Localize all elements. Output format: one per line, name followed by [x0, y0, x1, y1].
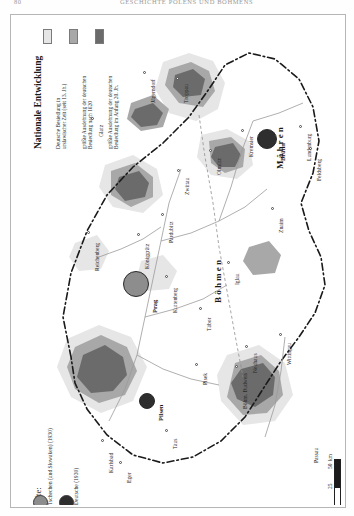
place-label: Pardubitz: [168, 243, 189, 249]
place-dot: [271, 207, 274, 210]
legend-label-1900: größte Ausdehnung der deutschen Besiedlu…: [107, 149, 219, 162]
place-dot: [87, 231, 90, 234]
place-label: Znaim: [278, 233, 293, 239]
running-header: 80 GESCHICHTE POLENS UND BÖHMENS: [0, 0, 354, 11]
place-label: Troppau: [183, 103, 202, 109]
scale-track: [334, 459, 341, 505]
scale-tick-50: 50: [327, 469, 332, 475]
place-label: Neuhaus: [252, 373, 272, 379]
region-label-moravia: Mähren: [275, 169, 319, 179]
legend-national-development: Nationale Entwicklung Deutsche Besiedlun…: [21, 23, 133, 155]
place-label: Zwittau: [184, 195, 201, 201]
place-label: Brünn: [279, 161, 297, 168]
scale-bar: 0 25 50 km: [325, 453, 343, 505]
place-dot: [245, 345, 248, 348]
place-dot: [119, 461, 122, 464]
place-dot: [101, 439, 104, 442]
place-label: Prag: [151, 313, 164, 320]
place-label: Wittingau: [286, 365, 308, 371]
folio-number: 80: [14, 0, 22, 5]
map-page: 80 GESCHICHTE POLENS UND BÖHMENS: [0, 0, 354, 516]
pie-swatch-german: [59, 495, 74, 505]
place-label: Olmütz: [216, 175, 233, 181]
place-dot: [279, 333, 282, 336]
place-label: Iglau: [234, 285, 246, 291]
place-label: Kremsier: [248, 157, 269, 163]
place-label: Pilsen: [157, 421, 173, 428]
place-dot: [209, 149, 212, 152]
place-label: Glatz: [98, 137, 110, 143]
place-dot: [227, 261, 230, 264]
place-dot: [176, 77, 179, 80]
place-dot: [235, 365, 238, 368]
place-dot: [299, 125, 302, 128]
legend-swatch-earliest: [43, 29, 52, 44]
legend-swatch-1900: [95, 29, 104, 44]
city-pie-bruenn: [257, 129, 277, 149]
legend-cities: Städte: Tschechen (und Slowaken) (1930) …: [19, 409, 97, 505]
place-dot: [195, 363, 198, 366]
legend-swatch-1620: [69, 29, 78, 44]
scale-tick-25: 25: [327, 489, 332, 495]
place-label: Kuttenberg: [172, 313, 197, 319]
place-label: Jägerndorf: [150, 103, 174, 109]
place-label: Reichenberg: [94, 271, 122, 277]
place-label: Eger: [126, 483, 137, 489]
place-label: Passau: [313, 463, 328, 469]
place-dot: [91, 117, 94, 120]
place-dot: [137, 233, 140, 236]
chapter-title: GESCHICHTE POLENS UND BÖHMENS: [120, 0, 253, 5]
city-pie-pilsen: [139, 393, 155, 409]
place-label: Tábor: [206, 331, 219, 337]
place-dot: [165, 275, 168, 278]
map-canvas: Nationale Entwicklung Deutsche Besiedlun…: [13, 17, 343, 505]
place-dot: [177, 169, 180, 172]
place-label: Taus: [172, 449, 182, 455]
region-label-bohemia: Böhmen: [213, 303, 258, 313]
place-dot: [241, 129, 244, 132]
place-dot: [161, 213, 164, 216]
place-dot: [199, 307, 202, 310]
place-dot: [143, 71, 146, 74]
place-label: Böhm. Budweis: [242, 409, 278, 415]
place-dot: [309, 147, 312, 150]
place-dot: [165, 429, 168, 432]
map-plate: Nationale Entwicklung Deutsche Besiedlun…: [10, 14, 346, 508]
place-label: Pisek: [202, 385, 214, 391]
scale-fill: [335, 460, 340, 488]
pie-swatch-czech: [33, 495, 48, 505]
city-pie-prag: [123, 271, 149, 297]
place-label: Feldsberg: [316, 181, 338, 187]
